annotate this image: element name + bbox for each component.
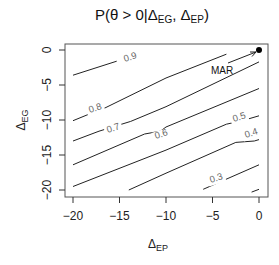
y-axis-label: ΔEG	[14, 109, 30, 130]
x-tick-label: −20	[63, 209, 84, 223]
contour-0.4	[129, 140, 259, 190]
x-tick-label: −15	[109, 209, 130, 223]
mar-point	[256, 47, 262, 53]
mar-arrow	[228, 52, 256, 63]
y-tick-label: −10	[40, 109, 54, 130]
y-tick-label: 0	[40, 46, 54, 53]
x-tick-label: −10	[156, 209, 177, 223]
contour-0.5	[73, 116, 259, 187]
contour-chart: P(θ > 0|ΔEG, ΔEP) 0.90.80.70.60.50.40.3 …	[0, 0, 279, 265]
y-tick-label: −5	[40, 78, 54, 92]
y-axis: −20−15−10−50	[40, 46, 65, 200]
x-axis: −20−15−10−50	[63, 197, 263, 223]
mar-label: MAR	[211, 65, 233, 76]
x-axis-label: ΔEP	[148, 237, 168, 253]
x-tick-label: 0	[256, 209, 263, 223]
contour-0.9	[73, 61, 117, 75]
y-tick-label: −15	[40, 144, 54, 165]
contour-labels: 0.90.80.70.60.50.40.3	[85, 49, 261, 186]
y-tick-label: −20	[40, 179, 54, 200]
contour-0.2	[252, 189, 259, 192]
x-tick-label: −5	[206, 209, 220, 223]
chart-title: P(θ > 0|ΔEG, ΔEP)	[95, 6, 209, 25]
contour-0.6	[73, 89, 259, 165]
mar-annotation: MAR	[211, 47, 262, 76]
